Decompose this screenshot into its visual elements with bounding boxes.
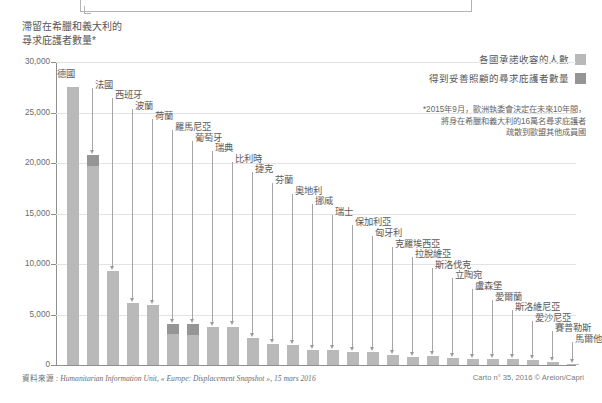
y-axis-label: 20,000 <box>4 158 50 167</box>
bar-segment-pledged <box>167 334 180 365</box>
leader-line <box>392 247 393 351</box>
leader-line <box>352 225 353 346</box>
leader-arrow <box>330 345 334 349</box>
source-note: 資料來源 : Humanitarian Information Unit, « … <box>22 372 316 383</box>
leader-line <box>432 268 433 351</box>
bar-segment-pledged <box>327 350 340 365</box>
bar <box>207 327 220 365</box>
bar-segment-pledged <box>147 305 160 365</box>
bar <box>127 303 140 365</box>
leader-arrow <box>90 150 94 154</box>
bar-segment-pledged <box>527 360 540 365</box>
bar <box>407 357 420 365</box>
leader-line <box>252 172 253 332</box>
leader-arrow <box>310 345 314 349</box>
leader-line <box>532 321 533 355</box>
leader-line <box>412 257 413 352</box>
category-label: 挪威 <box>315 193 333 207</box>
bar <box>367 352 380 365</box>
leader-line <box>132 109 133 298</box>
leader-arrow <box>250 333 254 337</box>
bar <box>187 324 200 365</box>
leader-arrow <box>190 319 194 323</box>
bar-segment-pledged <box>407 357 420 365</box>
category-label: 波蘭 <box>135 98 153 112</box>
leader-line <box>332 215 333 345</box>
cropped-top-box <box>80 0 472 12</box>
bar-segment-pledged <box>247 338 260 365</box>
leader-line <box>152 119 153 300</box>
y-axis-label: 10,000 <box>4 259 50 268</box>
leader-arrow <box>350 347 354 351</box>
gridline <box>56 365 576 366</box>
bar <box>347 352 360 365</box>
bar-segment-relocated <box>167 324 180 334</box>
bar <box>167 324 180 365</box>
bar-segment-pledged <box>387 355 400 365</box>
bar-segment-pledged <box>367 352 380 365</box>
leader-line <box>292 194 293 341</box>
bar <box>547 362 560 365</box>
category-label: 瑞士 <box>335 204 353 218</box>
bar-segment-pledged <box>227 327 240 366</box>
leader-arrow <box>230 321 234 325</box>
bar-segment-relocated <box>87 155 100 166</box>
legend-swatch-pledged <box>575 54 586 65</box>
title-line-2: 尋求庇護者數量* <box>22 34 242 48</box>
bar-segment-pledged <box>507 359 520 365</box>
bar-segment-pledged <box>127 303 140 365</box>
y-axis-label: 0 <box>4 360 50 369</box>
leader-line <box>452 278 453 353</box>
bar <box>447 358 460 365</box>
bar <box>107 271 120 365</box>
bar-segment-pledged <box>467 359 480 365</box>
leader-arrow <box>530 355 534 359</box>
leader-arrow <box>450 353 454 357</box>
bar-segment-pledged <box>447 358 460 365</box>
source-text: Humanitarian Information Unit, « Europe:… <box>60 374 315 383</box>
page-title: 滯留在希臘和義大利的 尋求庇護者數量* <box>22 20 242 48</box>
bar <box>487 359 500 365</box>
bar-segment-pledged <box>207 327 220 365</box>
leader-arrow <box>150 300 154 304</box>
leader-line <box>512 310 513 354</box>
leader-line <box>472 289 473 354</box>
leader-line <box>232 162 233 322</box>
leader-arrow <box>410 352 414 356</box>
y-axis-label: 30,000 <box>4 57 50 66</box>
bar-segment-pledged <box>187 335 200 365</box>
bar <box>567 364 580 365</box>
leader-line <box>272 183 273 339</box>
bar-segment-pledged <box>427 356 440 365</box>
category-label: 芬蘭 <box>275 172 293 186</box>
bar <box>287 345 300 365</box>
category-label: 荷蘭 <box>155 108 173 122</box>
bar <box>507 359 520 365</box>
leader-arrow <box>170 319 174 323</box>
y-tick <box>51 62 56 63</box>
leader-line <box>92 88 93 150</box>
leader-line <box>552 331 553 356</box>
leader-arrow <box>430 351 434 355</box>
y-tick <box>51 315 56 316</box>
leader-line <box>212 151 213 322</box>
plot-area: 德國法國西班牙波蘭荷蘭羅馬尼亞葡萄牙瑞典比利時捷克芬蘭奧地利挪威瑞士保加利亞匈牙… <box>56 62 576 365</box>
bar <box>87 155 100 365</box>
leader-arrow <box>110 266 114 270</box>
bar <box>267 344 280 365</box>
bar <box>67 87 80 365</box>
leader-arrow <box>270 339 274 343</box>
bar <box>147 305 160 365</box>
leader-line <box>492 300 493 354</box>
bar-segment-pledged <box>107 271 120 365</box>
leader-line <box>572 342 573 359</box>
y-tick <box>51 264 56 265</box>
bar-segment-pledged <box>547 362 560 365</box>
leader-line <box>112 98 113 266</box>
bar <box>227 327 240 366</box>
leader-arrow <box>370 347 374 351</box>
y-tick <box>51 163 56 164</box>
bar <box>387 355 400 365</box>
bar <box>427 356 440 365</box>
leader-line <box>192 141 193 319</box>
